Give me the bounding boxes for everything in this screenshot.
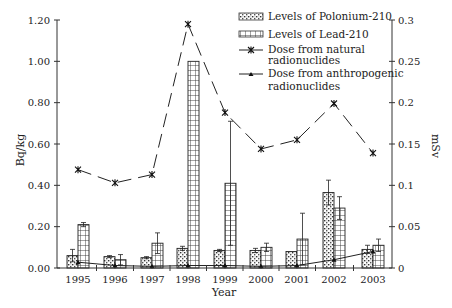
lead-bar (78, 225, 89, 268)
x-tick-label: 1999 (212, 274, 237, 285)
legend-label: radionuclides (268, 54, 340, 66)
x-tick-label: 2003 (360, 274, 385, 285)
polonium-bar (177, 248, 188, 268)
y2-tick-label: 0.2 (398, 97, 414, 108)
y-tick-label: 0.80 (28, 97, 50, 108)
x-tick-label: 2000 (248, 274, 273, 285)
legend-label: radionuclides (268, 80, 340, 92)
x-tick-label: 2001 (284, 274, 309, 285)
left-axis: 0.000.200.400.600.801.001.20 (28, 15, 60, 274)
y-axis-right-title: mSv (429, 134, 442, 159)
legend-label: Levels of Lead-210 (268, 28, 369, 40)
asterisk-marker-icon (112, 179, 118, 186)
legend-label: Dose from anthropogenic (268, 67, 404, 79)
y2-tick-label: 0.1 (398, 180, 414, 191)
asterisk-marker-icon (294, 136, 300, 143)
legend-item-polonium: Levels of Polonium-210 (239, 10, 392, 22)
polonium-bar (250, 250, 261, 268)
legend-item-anthropogenic-dose: Dose from anthropogenic radionuclides (239, 67, 404, 92)
right-axis-ticks: 00.050.10.150.20.250.3 (389, 15, 420, 274)
lead-bar (188, 61, 199, 268)
asterisk-marker-icon (222, 109, 228, 116)
x-axis-title: Year (211, 286, 237, 299)
y-axis-left-title: Bq/kg (14, 134, 27, 167)
y2-tick-label: 0 (398, 263, 404, 274)
y2-tick-label: 0.25 (398, 56, 420, 67)
asterisk-marker-icon (75, 166, 81, 173)
grid-swatch-icon (239, 31, 263, 37)
x-tick-label: 1996 (102, 274, 127, 285)
left-axis-ticks: 0.000.200.400.600.801.001.20 (28, 15, 60, 274)
asterisk-marker-icon (185, 21, 191, 28)
x-tick-label: 1995 (65, 274, 90, 285)
y-tick-label: 0.40 (28, 180, 50, 191)
x-axis: 199519961997199819992000200120022003 (57, 265, 392, 285)
y2-tick-label: 0.3 (398, 15, 414, 26)
asterisk-marker-icon (370, 150, 376, 157)
legend-label: Levels of Polonium-210 (268, 10, 392, 22)
y-tick-label: 0.20 (28, 221, 50, 232)
y-tick-label: 1.20 (28, 15, 50, 26)
right-axis: 00.050.10.150.20.250.3 (389, 15, 420, 274)
dotted-swatch-icon (239, 13, 263, 20)
bar-series (67, 61, 384, 268)
chart: 0.000.200.400.600.801.001.20 00.050.10.1… (0, 0, 452, 308)
x-tick-label: 2002 (321, 274, 346, 285)
legend: Levels of Polonium-210 Levels of Lead-21… (239, 10, 404, 92)
asterisk-marker-icon (258, 145, 264, 152)
y2-tick-label: 0.05 (398, 221, 420, 232)
legend-item-lead: Levels of Lead-210 (239, 28, 369, 40)
y-tick-label: 1.00 (28, 56, 50, 67)
x-tick-label: 1997 (139, 274, 164, 285)
x-tick-label: 1998 (175, 274, 200, 285)
legend-item-natural-dose: Dose from natural radionuclides (239, 43, 365, 66)
y-tick-label: 0.00 (28, 263, 50, 274)
asterisk-marker-icon (331, 100, 337, 107)
y-tick-label: 0.60 (28, 139, 50, 150)
y2-tick-label: 0.15 (398, 139, 420, 150)
